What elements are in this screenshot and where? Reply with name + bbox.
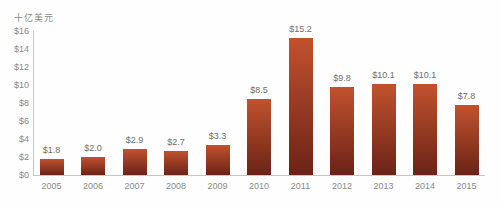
bar-2010 (247, 99, 271, 176)
bar-2006 (81, 157, 105, 175)
y-axis-tick-label: $2 (0, 152, 29, 162)
y-axis-tick-label: $4 (0, 134, 29, 144)
y-axis-tick-label: $6 (0, 116, 29, 126)
bar-value-label: $7.8 (442, 91, 492, 101)
bar-2007 (123, 149, 147, 175)
bar-2014 (413, 84, 437, 175)
bar-2011 (289, 38, 313, 175)
y-axis-tick-label: $14 (0, 44, 29, 54)
x-axis-tick-label: 2015 (442, 181, 492, 191)
bar-value-label: $8.5 (234, 85, 284, 95)
bar-value-label: $15.2 (276, 24, 326, 34)
bar-chart: 十亿美元 $0$2$4$6$8$10$12$14$16$1.82005$2.02… (0, 0, 500, 205)
y-axis-tick-label: $10 (0, 80, 29, 90)
plot-area: $0$2$4$6$8$10$12$14$16$1.82005$2.02006$2… (0, 0, 500, 205)
bar-2005 (40, 159, 64, 175)
bar-2013 (372, 84, 396, 175)
bar-value-label: $10.1 (400, 70, 450, 80)
y-axis-tick-label: $12 (0, 62, 29, 72)
x-axis-line (33, 175, 485, 176)
bar-2015 (455, 105, 479, 175)
y-axis-tick-label: $8 (0, 98, 29, 108)
bar-2009 (206, 145, 230, 175)
y-axis-tick-label: $16 (0, 26, 29, 36)
bar-value-label: $3.3 (193, 131, 243, 141)
bar-2012 (330, 87, 354, 175)
bar-2008 (164, 151, 188, 175)
y-axis-tick-label: $0 (0, 170, 29, 180)
